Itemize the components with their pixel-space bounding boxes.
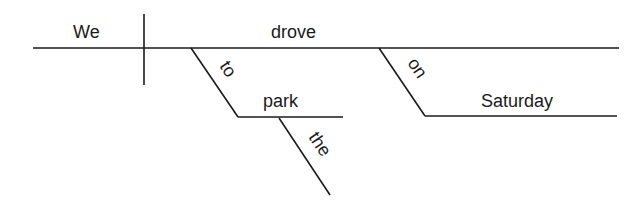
word-object-2: Saturday: [481, 91, 553, 111]
word-preposition-1: to: [216, 57, 241, 81]
word-article-1: the: [305, 128, 336, 160]
word-subject: We: [73, 22, 100, 42]
word-object-1: park: [263, 91, 299, 111]
word-preposition-2: on: [404, 54, 432, 82]
sentence-diagram: We drove park Saturday to the on: [0, 0, 644, 211]
word-verb: drove: [271, 22, 316, 42]
